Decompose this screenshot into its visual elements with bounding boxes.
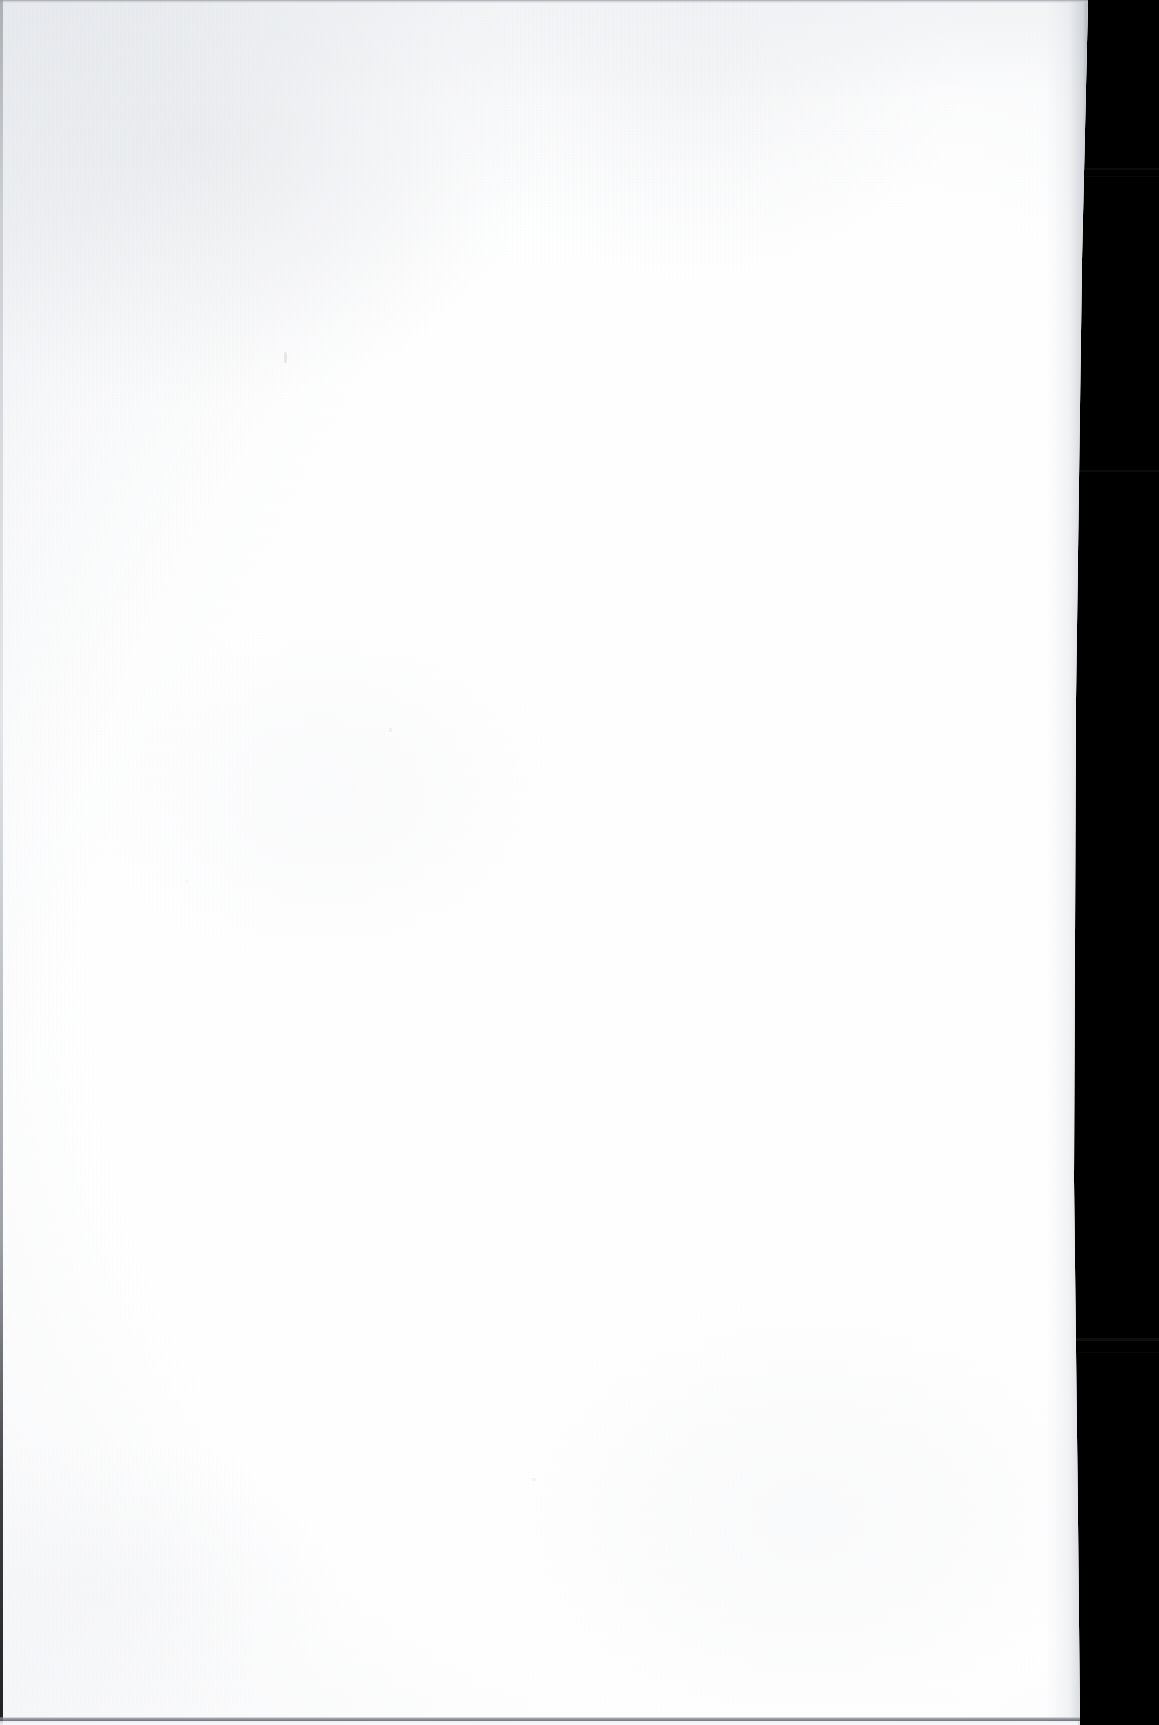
paper-sheet: [0, 0, 1092, 1725]
page-body: [96, 96, 972, 1629]
scan-frame: Blank page — no printed or handwritten c…: [0, 0, 1159, 1725]
